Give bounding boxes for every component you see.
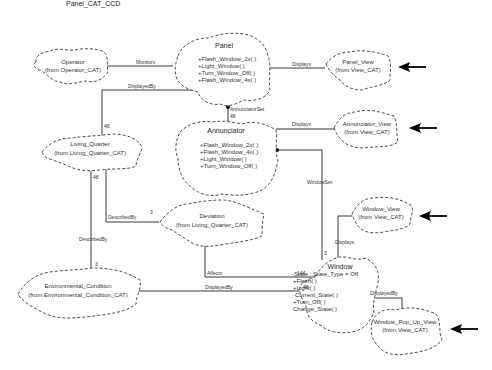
label-mult-144: 144: [297, 270, 306, 276]
label-describedby-dev: DescribedBy: [108, 214, 137, 220]
class-name: Operator: [61, 59, 85, 65]
class-member: +Turn_Off( ): [293, 299, 326, 305]
label-win-displayedby: DisplayedBy: [370, 290, 398, 296]
label-lq-displayedby: DisplayedBy: [128, 83, 156, 89]
class-name: Annunciator: [207, 127, 245, 134]
label-mult-48-ann: 48: [230, 113, 236, 119]
class-member: -Current_State( ): [293, 292, 338, 298]
label-mult-48-lq: 48: [104, 123, 110, 129]
label-monitors: Monitors: [136, 59, 156, 65]
label-mult-3-env: 3: [95, 261, 98, 267]
class-name: Living_Quarter: [70, 141, 109, 147]
label-env-displayedby: DisplayedBy: [205, 284, 233, 290]
annunciator-view-arrow: [409, 123, 437, 133]
label-mult-48-lq2: 48: [93, 174, 99, 180]
class-name: Panel_View: [342, 59, 374, 65]
class-deviation[interactable]: Deviation (from Living_Quarter_CAT): [160, 200, 264, 246]
label-describedby-env: DescribedBy: [79, 236, 108, 242]
class-member: +Flash_Window_4x( ): [200, 149, 258, 155]
class-name: Window_View: [362, 206, 400, 212]
class-living-quarter[interactable]: Living_Quarter (from Living_Quarter_CAT): [42, 134, 142, 171]
class-name: Panel: [215, 42, 233, 49]
class-source: (from Living_Quarter_CAT): [54, 150, 126, 156]
class-panel[interactable]: Panel +Flash_Window_2x( ) +Light_Window(…: [175, 33, 270, 105]
class-name: Environmental_Condition: [44, 283, 111, 289]
class-member: +Flash_Window_2x( ): [200, 142, 258, 148]
class-member: +Turn_Window_Off( ): [198, 70, 255, 76]
label-mult-3-win: 3: [324, 250, 327, 256]
class-member: +Turn_Window_Off( ): [200, 163, 257, 169]
class-member: +Flash_Window_2x( ): [198, 56, 256, 62]
label-affects: Affects: [207, 270, 223, 276]
label-windowset: WindowSet: [307, 179, 333, 185]
class-source: (from View_CAT): [335, 67, 380, 73]
label-win-displays: Displays: [335, 239, 354, 245]
class-window[interactable]: Window -State : State_Type = Off +Flash(…: [292, 257, 379, 333]
class-panel-view[interactable]: Panel_View (from View_CAT): [326, 51, 391, 90]
label-annunciatorset: AnnunciatorSet: [230, 106, 265, 112]
edge-win-displays: [338, 216, 352, 258]
label-mult-48-win: 48: [303, 284, 309, 290]
class-source: (from Operator_CAT): [45, 67, 101, 73]
window-pop-up-view-arrow: [450, 324, 478, 334]
class-source: (from Environmental_Condition_CAT): [28, 292, 128, 298]
class-environmental-condition[interactable]: Environmental_Condition (from Environmen…: [18, 268, 140, 318]
class-diagram: Operator (from Operator_CAT) Panel +Flas…: [0, 0, 492, 370]
class-name: Window: [328, 263, 354, 270]
class-name: Window_Pop_Up_View: [374, 319, 437, 325]
class-member: Change_State( ): [293, 306, 337, 312]
class-operator[interactable]: Operator (from Operator_CAT): [34, 49, 108, 84]
panel-view-arrow: [398, 62, 426, 72]
class-name: Annunciator_View: [343, 121, 392, 127]
class-annunciator[interactable]: Annunciator +Flash_Window_2x( ) +Flash_W…: [176, 121, 278, 195]
label-ann-displays: Displays: [292, 121, 311, 127]
class-member: +Light_Window( ): [200, 156, 247, 162]
class-annunciator-view[interactable]: Annunciator_View (from View_CAT): [334, 110, 398, 148]
class-window-view[interactable]: Window_View (from View_CAT): [352, 197, 413, 233]
class-source: (from View_CAT): [344, 129, 389, 135]
class-source: (from View_CAT): [358, 214, 403, 220]
window-view-arrow: [419, 211, 447, 221]
class-name: Deviation: [199, 213, 224, 219]
class-source: (from Living_Quarter_CAT): [176, 222, 248, 228]
edge-windowset: [277, 150, 322, 260]
class-window-pop-up-view[interactable]: Window_Pop_Up_View (from View_CAT): [371, 308, 442, 355]
class-member: +Flash_Window_4x( ): [198, 77, 256, 83]
label-mult-3-dev: 3: [150, 209, 153, 215]
label-panel-displays: Displays: [292, 61, 311, 67]
class-source: (from View_CAT): [382, 327, 427, 333]
class-member: +Light_Window( ): [198, 63, 245, 69]
